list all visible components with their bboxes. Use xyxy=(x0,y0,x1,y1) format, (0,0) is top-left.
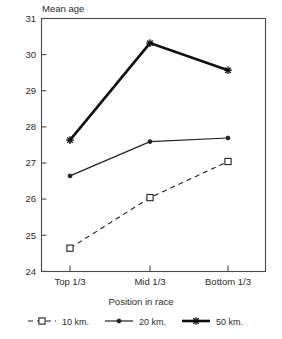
y-tick-label: 27 xyxy=(25,157,36,168)
series-50km-marker xyxy=(146,39,154,47)
series-10km-marker xyxy=(225,158,231,164)
y-tick-label: 26 xyxy=(25,193,36,204)
legend-label-50km: 50 km. xyxy=(216,317,243,327)
legend-label-20km: 20 km. xyxy=(139,317,166,327)
x-tick-label: Bottom 1/3 xyxy=(205,276,251,287)
series-20km-marker xyxy=(226,136,230,140)
legend-label-10km: 10 km. xyxy=(62,317,89,327)
series-20km-marker xyxy=(68,174,72,178)
series-20km-marker xyxy=(148,140,152,144)
y-tick-label: 24 xyxy=(25,266,36,277)
y-axis-title: Mean age xyxy=(42,3,84,14)
x-tick-labels: Top 1/3 Mid 1/3 Bottom 1/3 xyxy=(54,276,251,287)
chart-background xyxy=(0,0,282,339)
y-tick-label: 29 xyxy=(25,85,36,96)
chart-figure: Mean age 31 30 29 28 27 26 25 24 xyxy=(0,0,282,339)
series-10km-marker xyxy=(67,245,73,251)
y-tick-label: 30 xyxy=(25,49,36,60)
series-10km-marker xyxy=(147,195,153,201)
series-50km-marker xyxy=(66,136,74,144)
y-tick-label: 25 xyxy=(25,230,36,241)
y-tick-label: 31 xyxy=(25,13,36,24)
line-chart-svg: Mean age 31 30 29 28 27 26 25 24 xyxy=(0,0,282,339)
x-tick-label: Top 1/3 xyxy=(54,276,85,287)
x-tick-label: Mid 1/3 xyxy=(134,276,165,287)
y-tick-label: 28 xyxy=(25,121,36,132)
x-axis-title: Position in race xyxy=(109,296,174,307)
series-50km-marker xyxy=(224,66,232,74)
